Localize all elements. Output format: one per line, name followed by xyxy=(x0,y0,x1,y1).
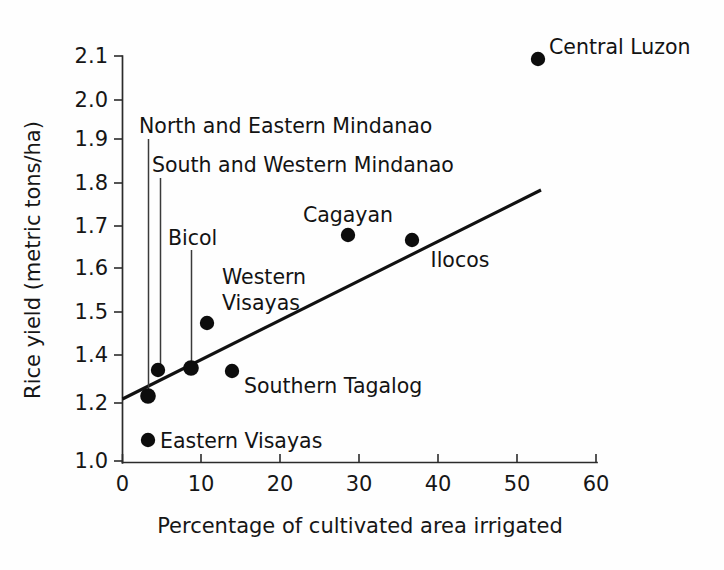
x-tick-label-20: 20 xyxy=(267,472,294,496)
chart-figure: 2.1 2.0 1.9 1.8 1.7 1.6 1.5 1.4 1.2 1.0 … xyxy=(0,0,724,570)
data-point-eastern-visayas[interactable] xyxy=(141,433,155,447)
point-label-north-and-eastern-mindanao: North and Eastern Mindanao xyxy=(139,114,432,138)
point-label-central-luzon: Central Luzon xyxy=(549,35,691,59)
data-point-ilocos[interactable] xyxy=(405,233,419,247)
y-axis: 2.1 2.0 1.9 1.8 1.7 1.6 1.5 1.4 1.2 1.0 … xyxy=(21,44,123,473)
point-label-southern-tagalog: Southern Tagalog xyxy=(244,374,422,398)
x-tick-label-30: 30 xyxy=(346,472,373,496)
point-label-ilocos: Ilocos xyxy=(431,248,490,272)
point-label-cagayan: Cagayan xyxy=(303,203,393,227)
x-tick-label-60: 60 xyxy=(583,472,610,496)
point-label-western-visayas-line1: Western xyxy=(222,265,306,289)
y-tick-label-1.9: 1.9 xyxy=(75,127,108,151)
x-axis: 0 10 20 30 40 50 60 Percentage of cultiv… xyxy=(116,454,610,538)
point-label-south-and-western-mindanao: South and Western Mindanao xyxy=(152,153,454,177)
y-tick-label-1.4: 1.4 xyxy=(75,343,108,367)
point-label-bicol: Bicol xyxy=(168,226,217,250)
x-tick-label-50: 50 xyxy=(504,472,531,496)
point-label-western-visayas-line2: Visayas xyxy=(222,291,300,315)
data-point-south-and-western-mindanao[interactable] xyxy=(151,363,165,377)
y-tick-label-1.2: 1.2 xyxy=(75,391,108,415)
scatter-plot-svg: 2.1 2.0 1.9 1.8 1.7 1.6 1.5 1.4 1.2 1.0 … xyxy=(0,0,724,570)
data-point-cagayan[interactable] xyxy=(341,228,355,242)
y-axis-title: Rice yield (metric tons/ha) xyxy=(21,121,45,399)
point-label-eastern-visayas: Eastern Visayas xyxy=(160,429,322,453)
data-point-north-and-eastern-mindanao[interactable] xyxy=(140,388,156,404)
x-axis-title: Percentage of cultivated area irrigated xyxy=(157,514,563,538)
y-tick-label-2.0: 2.0 xyxy=(75,88,108,112)
data-point-central-luzon[interactable] xyxy=(531,52,545,66)
data-point-southern-tagalog[interactable] xyxy=(225,364,239,378)
y-tick-label-1.0: 1.0 xyxy=(75,449,108,473)
data-point-western-visayas[interactable] xyxy=(200,316,214,330)
y-tick-label-1.8: 1.8 xyxy=(75,171,108,195)
y-tick-label-2.1: 2.1 xyxy=(75,44,108,68)
y-tick-label-1.5: 1.5 xyxy=(75,300,108,324)
x-tick-label-10: 10 xyxy=(188,472,215,496)
y-tick-label-1.6: 1.6 xyxy=(75,256,108,280)
x-tick-label-40: 40 xyxy=(425,472,452,496)
data-point-bicol[interactable] xyxy=(183,360,199,376)
y-tick-label-1.7: 1.7 xyxy=(75,214,108,238)
x-tick-label-0: 0 xyxy=(116,472,129,496)
